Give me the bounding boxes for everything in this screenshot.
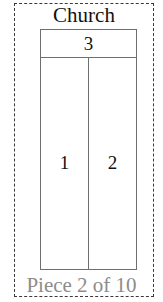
room-number-3: 3 — [41, 30, 136, 58]
room-region-1[interactable]: 1 — [41, 58, 89, 269]
page-title: Church — [14, 2, 154, 28]
room-number-2: 2 — [89, 153, 136, 172]
floor-plan-outline[interactable]: 3 1 2 — [40, 29, 137, 270]
rooms-lower-group: 1 2 — [41, 58, 136, 269]
room-region-3[interactable]: 3 — [41, 30, 136, 58]
piece-caption: Piece 2 of 10 — [0, 273, 163, 297]
room-number-1: 1 — [41, 153, 88, 172]
room-region-2[interactable]: 2 — [89, 58, 136, 269]
